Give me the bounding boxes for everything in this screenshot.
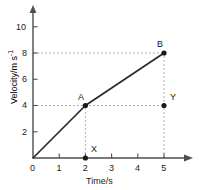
guide-lines [33,53,164,158]
x-tick-label-3: 3 [109,164,114,173]
y-tick-label-4: 4 [22,101,27,110]
arrow-right-icon [184,155,193,162]
y-axis-title: Velocity/m s-1 [9,50,19,104]
x-tick-label-1: 1 [57,164,62,173]
velocity-time-graph: 10 8 6 4 2 0 1 2 3 4 5 A B X Y Time/s Ve… [0,0,199,190]
marker-point-x [83,155,88,160]
point-label-b: B [157,40,163,49]
arrow-up-icon [30,5,37,13]
y-axis-title-wrapper: Velocity/m s-1 [3,37,21,117]
y-axis-title-text: Velocity/m s [9,56,19,104]
y-axis-title-exponent: -1 [7,50,14,56]
y-tick-label-10: 10 [16,23,26,32]
marker-point-y [161,103,166,108]
y-tick-label-2: 2 [22,128,27,137]
x-tick-label-2: 2 [83,164,88,173]
point-label-a: A [78,93,84,102]
marker-point-a [83,103,88,108]
point-label-y: Y [170,93,176,102]
y-tick-label-6: 6 [22,75,27,84]
marker-point-b [161,50,166,55]
x-axis-title: Time/s [86,177,113,186]
y-tick-label-8: 8 [22,49,27,58]
x-tick-label-5: 5 [161,164,166,173]
x-tick-label-0: 0 [30,164,35,173]
point-label-x: X [91,145,97,154]
x-tick-label-4: 4 [135,164,140,173]
